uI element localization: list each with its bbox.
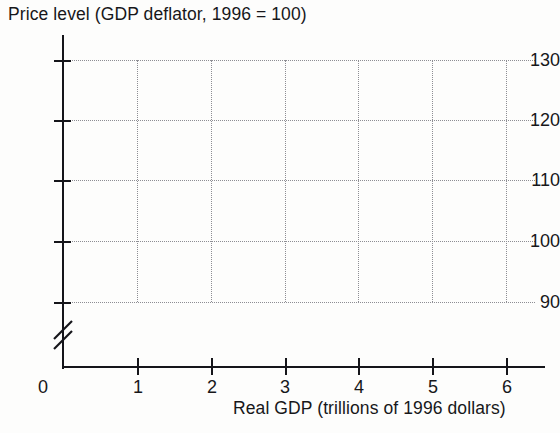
gridline-vertical — [211, 60, 212, 302]
x-axis-tick-label: 0 — [23, 378, 63, 396]
y-axis-tick — [54, 241, 71, 243]
gridline-horizontal — [63, 241, 535, 242]
y-axis-tick-label: 130 — [514, 51, 560, 69]
x-axis-tick — [137, 358, 139, 375]
x-axis-tick-label: 2 — [192, 378, 232, 396]
gridline-horizontal — [63, 60, 535, 61]
gridline-horizontal — [63, 180, 535, 181]
x-axis-tick-label: 5 — [413, 378, 453, 396]
gridline-vertical — [285, 60, 286, 302]
x-axis-tick-label: 3 — [265, 378, 305, 396]
y-axis-tick-label: 90 — [514, 293, 560, 311]
x-axis-title: Real GDP (trillions of 1996 dollars) — [233, 398, 506, 419]
chart-figure: Price level (GDP deflator, 1996 = 100) 1… — [0, 0, 560, 433]
x-axis-tick — [358, 358, 360, 375]
gridline-vertical — [432, 60, 433, 302]
gridline-horizontal — [63, 302, 535, 303]
y-axis-tick — [54, 180, 71, 182]
x-axis-tick-label: 6 — [487, 378, 527, 396]
x-axis-tick-label: 1 — [118, 378, 158, 396]
x-axis-tick — [211, 358, 213, 375]
y-axis-tick — [54, 60, 71, 62]
x-axis-tick — [506, 358, 508, 375]
gridline-vertical — [506, 60, 507, 302]
y-axis-tick — [54, 302, 71, 304]
x-axis-tick — [432, 358, 434, 375]
x-axis-tick-label: 4 — [339, 378, 379, 396]
gridline-vertical — [137, 60, 138, 302]
axis-break-icon — [50, 318, 80, 352]
gridline-vertical — [358, 60, 359, 302]
y-axis-title: Price level (GDP deflator, 1996 = 100) — [8, 4, 307, 25]
y-axis-tick-label: 110 — [514, 171, 560, 189]
plot-area — [63, 35, 535, 368]
y-axis-tick-label: 120 — [514, 111, 560, 129]
x-axis-line — [62, 366, 545, 368]
gridline-horizontal — [63, 120, 535, 121]
y-axis-tick — [54, 120, 71, 122]
y-axis-tick-label: 100 — [514, 232, 560, 250]
x-axis-tick — [285, 358, 287, 375]
